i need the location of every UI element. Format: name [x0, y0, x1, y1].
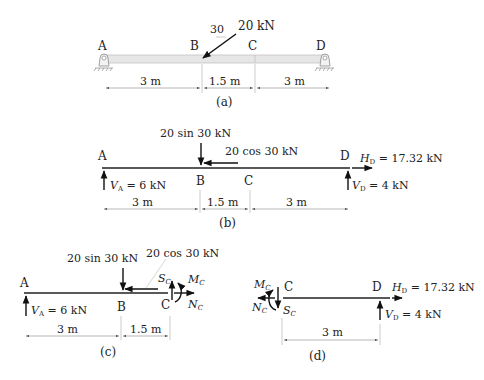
axial-nc-label: NC	[187, 298, 204, 312]
caption-c: (c)	[100, 345, 116, 359]
beam-a	[104, 55, 326, 63]
axial-nc-label: NC	[251, 301, 268, 315]
part-d: C D SC MC NC HD = 17.32 kN VD = 4 kN 3 m…	[251, 278, 475, 363]
dim-bc: 1.5 m	[207, 196, 239, 209]
moment-mc-arrow-icon	[269, 290, 276, 310]
point-a-label: A	[97, 39, 107, 53]
inclined-load-arrow-icon	[203, 34, 236, 58]
point-d-label: D	[340, 149, 350, 163]
horizontal-load-label: 20 cos 30 kN	[225, 145, 299, 158]
point-d-label: D	[316, 39, 326, 53]
reaction-hd-label: HD = 17.32 kN	[359, 152, 443, 166]
horizontal-load-label: 20 cos 30 kN	[146, 247, 220, 260]
dim-ab: 3 m	[140, 75, 161, 88]
reaction-vd-label: VD = 4 kN	[352, 179, 409, 193]
beam-analysis-diagram: A B C D 30 20 kN 3 m 1.5 m 3 m (a) A B C…	[0, 0, 484, 380]
reaction-va-label: VA = 6 kN	[110, 179, 166, 193]
caption-b: (b)	[219, 216, 236, 230]
point-b-label: B	[117, 300, 126, 314]
point-c-label: C	[244, 174, 253, 188]
point-c-label: C	[161, 298, 170, 312]
caption-d: (d)	[309, 349, 326, 363]
dim-cd: 3 m	[286, 196, 307, 209]
dim-bc: 1.5 m	[130, 323, 162, 336]
moment-mc-label: MC	[253, 278, 271, 292]
point-b-label: B	[190, 39, 199, 53]
caption-a: (a)	[216, 95, 233, 109]
moment-mc-label: MC	[187, 273, 205, 287]
part-c: A B C 20 sin 30 kN 20 cos 30 kN SC MC NC…	[19, 247, 220, 359]
point-c-label: C	[248, 39, 257, 53]
point-a-label: A	[19, 276, 29, 290]
load-label: 20 kN	[238, 19, 275, 33]
vertical-load-label: 20 sin 30 kN	[160, 127, 231, 140]
part-b: A B C D 20 sin 30 kN 20 cos 30 kN VA = 6…	[97, 127, 443, 230]
shear-sc-label: SC	[158, 272, 172, 286]
dim-bc: 1.5 m	[209, 75, 241, 88]
dim-cd: 3 m	[322, 326, 343, 339]
reaction-va-label: VA = 6 kN	[31, 304, 87, 318]
reaction-vd-label: VD = 4 kN	[385, 308, 442, 322]
point-b-label: B	[196, 174, 205, 188]
vertical-load-label: 20 sin 30 kN	[67, 252, 138, 265]
part-a: A B C D 30 20 kN 3 m 1.5 m 3 m (a)	[94, 19, 334, 109]
shear-sc-label: SC	[283, 304, 297, 318]
point-d-label: D	[372, 280, 382, 294]
dim-ab: 3 m	[57, 323, 78, 336]
dim-cd: 3 m	[284, 75, 305, 88]
dim-ab: 3 m	[132, 196, 153, 209]
reaction-hd-label: HD = 17.32 kN	[391, 281, 475, 295]
point-a-label: A	[97, 149, 107, 163]
angle-label: 30	[210, 23, 224, 36]
point-c-label: C	[284, 280, 293, 294]
